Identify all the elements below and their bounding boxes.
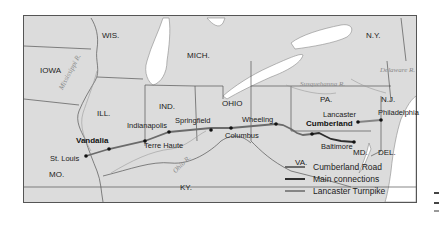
state-label-md: MD. bbox=[353, 149, 368, 157]
state-label-nj: N.J. bbox=[381, 96, 395, 104]
city-label-vandalia: Vandalia bbox=[76, 137, 108, 145]
city-label-columbus: Columbus bbox=[225, 132, 259, 140]
river-label-susquehanna: Susquehanna R. bbox=[300, 81, 345, 88]
state-label-mo: MO. bbox=[49, 171, 64, 179]
river-label-delaware: Delaware R. bbox=[380, 67, 415, 74]
legend-label-lancaster-turnpike: Lancaster Turnpike bbox=[313, 186, 385, 196]
state-label-pa: PA. bbox=[320, 96, 332, 104]
city-label-springfield: Springfield bbox=[175, 117, 210, 125]
state-label-iowa: IOWA bbox=[40, 67, 61, 75]
state-label-mich: MICH. bbox=[187, 52, 210, 60]
city-label-cumberland: Cumberland bbox=[306, 120, 353, 128]
city-label-terre-haute: Terre Haute bbox=[144, 142, 183, 150]
edge-mark bbox=[434, 202, 439, 204]
state-label-wis: WIS. bbox=[102, 32, 119, 40]
legend-swatch-cumberland-road bbox=[285, 166, 305, 168]
city-label-indianapolis: Indianapolis bbox=[127, 122, 167, 130]
legend-label-cumberland-road: Cumberland Road bbox=[313, 162, 382, 172]
city-label-lancaster: Lancaster bbox=[323, 111, 356, 119]
state-label-ill: ILL. bbox=[97, 110, 110, 118]
state-label-ky: KY. bbox=[180, 184, 192, 192]
legend-swatch-lancaster-turnpike bbox=[285, 190, 305, 192]
state-label-ny: N.Y. bbox=[366, 32, 381, 40]
city-label-wheeling: Wheeling bbox=[242, 116, 273, 124]
state-label-del: DEL. bbox=[378, 149, 396, 157]
legend-swatch-main-connections bbox=[285, 178, 305, 180]
edge-mark bbox=[434, 210, 439, 212]
edge-mark bbox=[434, 192, 439, 194]
city-label-st-louis: St. Louis bbox=[50, 155, 79, 163]
state-label-ohio: OHIO bbox=[222, 100, 242, 108]
state-label-ind: IND. bbox=[159, 103, 175, 111]
clipped-edge-marks bbox=[432, 188, 442, 218]
city-label-baltimore: Baltimore bbox=[321, 143, 353, 151]
city-label-philadelphia: Philadelphia bbox=[378, 109, 419, 117]
legend-label-main-connections: Main connections bbox=[313, 174, 379, 184]
